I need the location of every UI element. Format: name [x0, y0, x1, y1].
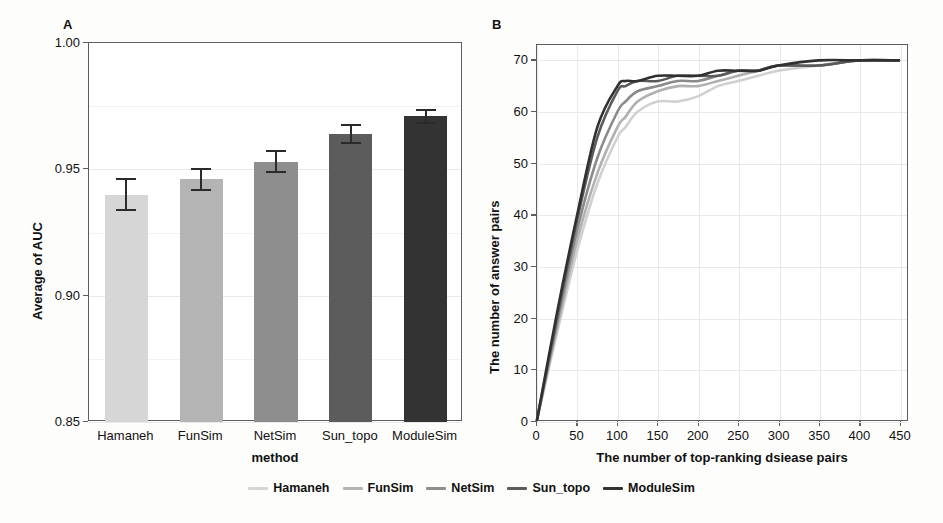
legend-item-hamaneh[interactable]: Hamaneh	[248, 481, 329, 495]
legend-label: ModuleSim	[628, 481, 695, 495]
panel-b-plot-area	[536, 44, 908, 421]
error-bar-hamaneh	[116, 178, 136, 211]
y-tick-label: 0.95	[26, 161, 80, 176]
error-bar-cap-bottom	[191, 189, 211, 191]
y-tick-label: 0	[478, 414, 528, 429]
line-series-modulesim	[537, 60, 899, 420]
x-tick-label: 50	[569, 428, 583, 443]
legend-line-swatch	[603, 487, 623, 490]
x-tick-label: 200	[687, 428, 709, 443]
panel-b-y-axis-title: The number of answer pairs	[487, 201, 502, 374]
error-bar-sun_topo	[341, 124, 361, 144]
legend-item-netsim[interactable]: NetSim	[426, 481, 494, 495]
error-bar-stem	[200, 168, 202, 191]
panel-b-line-chart	[537, 45, 907, 420]
error-bar-cap-top	[266, 150, 286, 152]
line-series-sun_topo	[537, 60, 899, 420]
bar-hamaneh	[105, 195, 148, 422]
x-tick-label: FunSim	[178, 428, 223, 443]
legend-label: Sun_topo	[532, 481, 590, 495]
error-bar-cap-bottom	[416, 122, 436, 124]
x-tick-label: Sun_topo	[322, 428, 378, 443]
error-bar-netsim	[266, 150, 286, 173]
error-bar-modulesim	[416, 109, 436, 124]
x-tick-label: 450	[889, 428, 911, 443]
x-tick-label: 250	[727, 428, 749, 443]
error-bar-stem	[125, 178, 127, 211]
line-series-hamaneh	[537, 60, 899, 420]
y-tick-mark	[83, 421, 88, 422]
legend-item-modulesim[interactable]: ModuleSim	[603, 481, 695, 495]
x-tick-label: 0	[532, 428, 539, 443]
y-tick-label: 50	[478, 155, 528, 170]
error-bar-cap-top	[191, 168, 211, 170]
error-bar-stem	[275, 150, 277, 173]
y-tick-label: 40	[478, 207, 528, 222]
error-bar-cap-bottom	[266, 171, 286, 173]
y-tick-label: 30	[478, 259, 528, 274]
error-bar-cap-top	[416, 109, 436, 111]
panel-a-label: A	[63, 17, 73, 32]
y-tick-label: 0.85	[26, 414, 80, 429]
panel-a-y-axis-title: Average of AUC	[30, 222, 45, 320]
bar-funsim	[180, 179, 223, 422]
panel-a-x-axis-title: method	[0, 450, 550, 465]
bar-sun_topo	[329, 134, 372, 422]
bar-netsim	[254, 162, 297, 422]
legend-line-swatch	[248, 487, 268, 490]
gridline	[537, 422, 907, 423]
x-tick-label: 400	[849, 428, 871, 443]
x-tick-label: NetSim	[254, 428, 297, 443]
legend-label: Hamaneh	[273, 481, 329, 495]
error-bar-cap-top	[116, 178, 136, 180]
legend-label: NetSim	[451, 481, 494, 495]
y-tick-label: 70	[478, 52, 528, 67]
y-tick-label: 1.00	[26, 35, 80, 50]
line-series-funsim	[537, 60, 899, 420]
bar-modulesim	[404, 116, 447, 422]
legend-label: FunSim	[368, 481, 414, 495]
legend: HamanehFunSimNetSimSun_topoModuleSim	[0, 481, 943, 495]
error-bar-stem	[350, 124, 352, 144]
y-tick-label: 10	[478, 362, 528, 377]
gridline	[89, 422, 461, 423]
x-tick-label: ModuleSim	[392, 428, 457, 443]
error-bar-funsim	[191, 168, 211, 191]
legend-item-funsim[interactable]: FunSim	[343, 481, 414, 495]
x-tick-label: 350	[808, 428, 830, 443]
y-tick-label: 60	[478, 104, 528, 119]
x-tick-label: 100	[606, 428, 628, 443]
x-tick-label: 150	[646, 428, 668, 443]
figure-container: A Average of AUC 0.850.900.951.00 Hamane…	[0, 0, 943, 523]
legend-item-sun_topo[interactable]: Sun_topo	[507, 481, 590, 495]
y-tick-label: 20	[478, 310, 528, 325]
error-bar-cap-bottom	[341, 142, 361, 144]
panel-b-x-axis-title: The number of top-ranking dsiease pairs	[536, 450, 908, 465]
x-tick-label: Hamaneh	[97, 428, 153, 443]
x-tick-label: 300	[768, 428, 790, 443]
legend-line-swatch	[507, 487, 527, 490]
panel-a-plot-area	[88, 42, 462, 421]
error-bar-cap-bottom	[116, 209, 136, 211]
legend-line-swatch	[426, 487, 446, 490]
legend-line-swatch	[343, 487, 363, 490]
y-tick-label: 0.90	[26, 287, 80, 302]
error-bar-cap-top	[341, 124, 361, 126]
line-series-netsim	[537, 60, 899, 420]
gridline-minor	[89, 106, 461, 107]
panel-b-label: B	[492, 17, 502, 32]
